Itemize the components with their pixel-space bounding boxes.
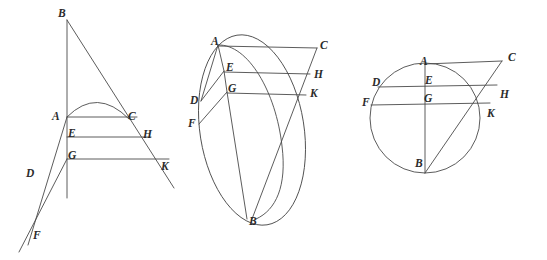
- f3-label-g: G: [424, 93, 432, 105]
- f1-label-d: D: [26, 168, 34, 180]
- f2-segment-de: [201, 71, 224, 101]
- f1-label-k: K: [161, 161, 169, 173]
- f1-label-c: C: [128, 111, 136, 123]
- figure-3-group: [370, 61, 502, 173]
- f2-label-e: E: [226, 62, 234, 74]
- f3-label-f: F: [362, 97, 370, 109]
- f3-label-a: A: [420, 56, 428, 68]
- f1-label-b: B: [58, 8, 66, 20]
- f1-label-g: G: [68, 150, 76, 162]
- f1-parabolic-arc: [67, 102, 129, 119]
- f2-large-ellipse: [186, 27, 319, 233]
- figure-2-group: [186, 27, 319, 233]
- f2-label-h: H: [314, 69, 323, 81]
- f1-label-e: E: [68, 128, 76, 140]
- f2-label-a: A: [211, 36, 219, 48]
- f3-chord-ac: [425, 61, 502, 64]
- f2-label-c: C: [320, 40, 328, 52]
- geometry-drawing: [0, 0, 547, 260]
- f3-chord-dh: [378, 85, 497, 87]
- f1-oblique-ray-bk: [67, 20, 174, 188]
- f2-label-g: G: [228, 83, 236, 95]
- figures-canvas: B A C E H G K D F A C E H G K D F B A C …: [0, 0, 547, 260]
- f3-label-d: D: [372, 77, 380, 89]
- f2-chord-eh: [224, 72, 310, 74]
- f1-label-a: A: [52, 111, 60, 123]
- f1-label-h: H: [143, 129, 152, 141]
- f3-label-b: B: [415, 158, 423, 170]
- f1-ray-adf: [28, 117, 67, 245]
- f2-chord-gk: [227, 93, 306, 95]
- f3-label-h: H: [500, 89, 509, 101]
- f3-label-e: E: [425, 75, 433, 87]
- f3-label-k: K: [487, 108, 495, 120]
- f3-label-c: C: [508, 52, 516, 64]
- f2-label-d: D: [190, 95, 198, 107]
- f1-label-f: F: [33, 230, 41, 242]
- f2-label-f: F: [188, 118, 196, 130]
- f2-label-b: B: [249, 216, 257, 228]
- f2-label-k: K: [310, 88, 318, 100]
- f2-segment-fg: [199, 92, 227, 124]
